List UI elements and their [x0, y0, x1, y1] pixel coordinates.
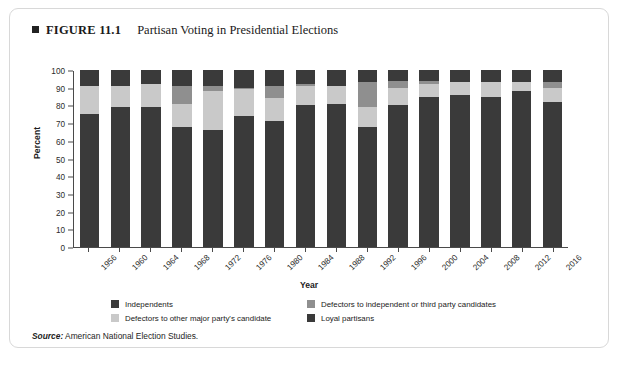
- x-tick-label: 1984: [316, 253, 335, 272]
- x-tick-mark: [522, 248, 523, 252]
- x-tick-mark: [336, 248, 337, 252]
- bar-segment: [327, 70, 346, 86]
- bar-segment: [80, 70, 99, 86]
- x-tick-label: 1972: [224, 253, 243, 272]
- bar-slot: [228, 71, 259, 247]
- bar-segment: [111, 70, 130, 86]
- bar-slot: [506, 71, 537, 247]
- x-tick-label: 1996: [409, 253, 428, 272]
- figure-card: FIGURE 11.1 Partisan Voting in President…: [9, 8, 609, 348]
- stacked-bar[interactable]: [265, 70, 284, 247]
- bar-segment: [234, 116, 253, 247]
- x-tick-mark: [305, 248, 306, 252]
- stacked-bar[interactable]: [419, 70, 438, 247]
- stacked-bar[interactable]: [512, 70, 531, 247]
- stacked-bar[interactable]: [111, 70, 130, 247]
- x-tick-label: 1980: [285, 253, 304, 272]
- legend-swatch-icon: [307, 314, 315, 322]
- stacked-bar[interactable]: [450, 70, 469, 247]
- bar-segment: [388, 81, 407, 88]
- y-tick-label: 30: [56, 190, 65, 199]
- y-tick-label: 60: [56, 137, 65, 146]
- bar-slot: [105, 71, 136, 247]
- x-tick-label: 2008: [502, 253, 521, 272]
- legend-swatch-icon: [307, 300, 315, 308]
- legend-item[interactable]: Loyal partisans: [307, 311, 531, 325]
- x-tick-label: 2012: [533, 253, 552, 272]
- bar-segment: [481, 82, 500, 96]
- stacked-bar[interactable]: [296, 70, 315, 247]
- stacked-bar[interactable]: [234, 70, 253, 247]
- x-tick-mark: [460, 248, 461, 252]
- legend-item[interactable]: Defectors to independent or third party …: [307, 297, 531, 311]
- bars-layer: [74, 71, 568, 247]
- x-tick-label: 2000: [440, 253, 459, 272]
- stacked-bar[interactable]: [172, 70, 191, 247]
- stacked-bar[interactable]: [481, 70, 500, 247]
- legend-swatch-icon: [111, 314, 119, 322]
- stacked-bar[interactable]: [80, 70, 99, 247]
- stacked-bar[interactable]: [388, 70, 407, 247]
- bar-segment: [450, 82, 469, 94]
- bar-segment: [203, 70, 222, 86]
- stacked-bar[interactable]: [543, 70, 562, 247]
- x-tick-label: 1988: [347, 253, 366, 272]
- legend-label: Defectors to other major party's candida…: [125, 314, 271, 323]
- bar-segment: [141, 70, 160, 84]
- bar-segment: [450, 95, 469, 247]
- bar-segment: [296, 105, 315, 247]
- stacked-bar[interactable]: [141, 70, 160, 247]
- bar-segment: [481, 70, 500, 82]
- bar-segment: [141, 84, 160, 107]
- bar-slot: [445, 71, 476, 247]
- x-tick-label: 2004: [471, 253, 490, 272]
- bar-segment: [265, 70, 284, 86]
- x-tick-label: 2016: [564, 253, 583, 272]
- source-note: Source: American National Election Studi…: [32, 331, 198, 341]
- x-tick-label: 1976: [254, 253, 273, 272]
- x-tick-label: 1968: [193, 253, 212, 272]
- x-tick-mark: [491, 248, 492, 252]
- x-tick-mark: [88, 248, 89, 252]
- bar-segment: [265, 121, 284, 247]
- bar-segment: [543, 88, 562, 102]
- bar-segment: [80, 114, 99, 247]
- x-tick-mark: [119, 248, 120, 252]
- x-tick-mark: [274, 248, 275, 252]
- y-axis-title: Percent: [32, 127, 42, 159]
- bar-slot: [537, 71, 568, 247]
- y-tick-label: 70: [56, 120, 65, 129]
- bar-segment: [265, 86, 284, 98]
- stacked-bar[interactable]: [327, 70, 346, 247]
- bar-segment: [172, 70, 191, 86]
- y-tick-label: 50: [56, 155, 65, 164]
- bar-segment: [111, 86, 130, 107]
- bar-segment: [543, 102, 562, 247]
- bar-segment: [358, 127, 377, 247]
- bar-slot: [259, 71, 290, 247]
- stacked-bar[interactable]: [203, 70, 222, 247]
- x-tick-label: 1960: [131, 253, 150, 272]
- plot-area: [73, 71, 568, 248]
- bar-segment: [296, 86, 315, 105]
- x-tick-mark: [243, 248, 244, 252]
- legend-label: Independents: [125, 300, 173, 309]
- stacked-bar[interactable]: [358, 70, 377, 247]
- bar-segment: [234, 89, 253, 116]
- page-title: Partisan Voting in Presidential Election…: [137, 23, 338, 38]
- bar-segment: [327, 86, 346, 104]
- x-tick-label: 1956: [100, 253, 119, 272]
- legend-item[interactable]: Defectors to other major party's candida…: [111, 311, 307, 325]
- y-tick-label: 100: [51, 67, 65, 76]
- bar-slot: [198, 71, 229, 247]
- bar-segment: [388, 88, 407, 106]
- x-tick-mark: [181, 248, 182, 252]
- x-tick-mark: [150, 248, 151, 252]
- y-tick-label: 10: [56, 226, 65, 235]
- legend-item[interactable]: Independents: [111, 297, 307, 311]
- x-tick-mark: [429, 248, 430, 252]
- bar-segment: [512, 91, 531, 247]
- legend-swatch-icon: [111, 300, 119, 308]
- y-tick-label: 80: [56, 102, 65, 111]
- y-tick-label: 90: [56, 84, 65, 93]
